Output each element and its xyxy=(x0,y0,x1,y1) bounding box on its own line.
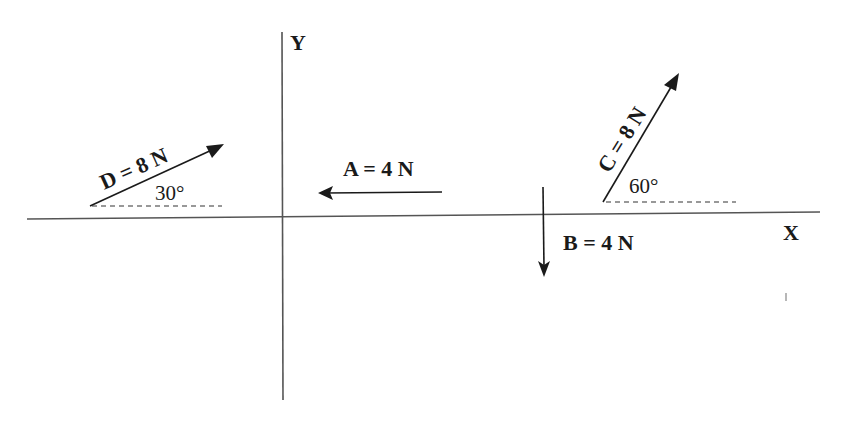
vector-c: C = 8 N 60° xyxy=(592,73,736,202)
vector-b-label: B = 4 N xyxy=(563,230,634,255)
vector-d-angle-label: 30° xyxy=(155,181,184,205)
force-vector-diagram: Y X D = 8 N 30° A = 4 N B = 4 N C = 8 N … xyxy=(0,0,847,422)
vector-d-arrowhead-icon xyxy=(206,144,224,158)
vector-a-label: A = 4 N xyxy=(343,156,414,181)
vector-c-arrowhead-icon xyxy=(664,73,679,91)
y-axis xyxy=(282,32,283,400)
vector-a-shaft xyxy=(326,192,442,193)
vector-a: A = 4 N xyxy=(318,156,442,200)
coordinate-axes: Y X xyxy=(27,30,820,400)
y-axis-label: Y xyxy=(290,30,306,55)
vector-b: B = 4 N xyxy=(538,187,634,277)
vector-c-angle-label: 60° xyxy=(629,174,658,198)
vector-c-label: C = 8 N xyxy=(592,102,651,176)
x-axis xyxy=(27,212,820,219)
vector-b-shaft xyxy=(543,187,544,268)
x-axis-label: X xyxy=(783,220,799,245)
vector-d: D = 8 N 30° xyxy=(90,142,224,206)
